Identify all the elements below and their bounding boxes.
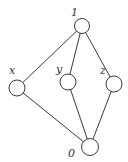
edge-y-0 xyxy=(68,82,90,147)
node-x xyxy=(9,80,25,96)
node-one xyxy=(75,19,90,34)
label-z: z xyxy=(99,64,106,77)
edge-x-0 xyxy=(17,88,90,147)
label-y: y xyxy=(55,63,63,76)
edge-1-z xyxy=(82,26,114,84)
hasse-diagram: 1 x y z 0 xyxy=(0,0,128,162)
node-z xyxy=(106,76,122,92)
node-zero xyxy=(82,139,99,156)
label-zero: 0 xyxy=(68,147,75,160)
node-y xyxy=(60,74,76,90)
edge-z-0 xyxy=(90,84,114,147)
label-x: x xyxy=(9,64,16,77)
nodes-group xyxy=(9,19,122,156)
edge-1-y xyxy=(68,26,82,82)
label-one: 1 xyxy=(71,6,78,19)
